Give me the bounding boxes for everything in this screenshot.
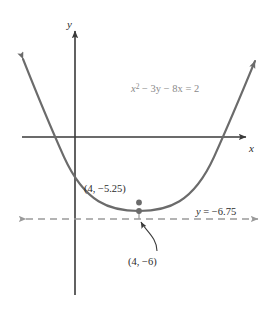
focus-point — [136, 200, 142, 206]
y-axis-label: y — [66, 18, 72, 30]
figure-background — [0, 0, 268, 318]
vertex-point-label: (4, −6) — [128, 256, 157, 268]
directrix-label-value: = −6.75 — [201, 206, 236, 217]
parabola-figure: y x x2 − 3y − 8x = 2 (4, −5.25) y = −6.7… — [0, 0, 268, 318]
focus-point-label: (4, −5.25) — [84, 183, 126, 195]
x-axis-label: x — [248, 142, 254, 154]
vertex-point — [136, 208, 142, 214]
directrix-label: y = −6.75 — [195, 206, 236, 217]
equation-rest: − 3y − 8x = 2 — [139, 83, 199, 94]
equation-annotation: x2 − 3y − 8x = 2 — [130, 82, 199, 95]
